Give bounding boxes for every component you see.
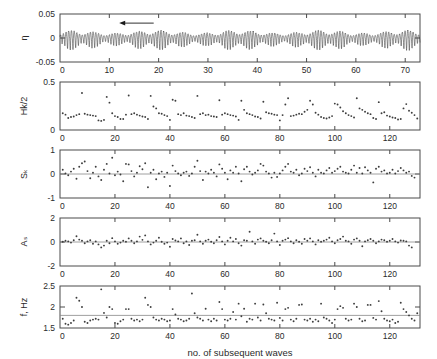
- data-point: [95, 115, 97, 117]
- data-point: [152, 242, 154, 244]
- data-point: [353, 239, 355, 241]
- data-point: [411, 112, 413, 114]
- data-point: [161, 241, 163, 243]
- data-point: [273, 172, 275, 174]
- data-point: [84, 161, 86, 163]
- data-point: [183, 242, 185, 244]
- data-point: [155, 107, 157, 109]
- panel-3-points: [62, 157, 416, 188]
- data-point: [257, 169, 259, 171]
- data-point: [221, 168, 223, 170]
- data-point: [183, 172, 185, 174]
- xtick-label: 0: [60, 133, 65, 143]
- data-point: [98, 119, 100, 121]
- ytick-label: 0: [50, 169, 55, 179]
- data-point: [392, 117, 394, 119]
- data-point: [249, 171, 251, 173]
- data-point: [400, 240, 402, 242]
- xtick-label: 0: [60, 269, 65, 279]
- data-point: [276, 240, 278, 242]
- data-point: [339, 166, 341, 168]
- data-point: [397, 170, 399, 172]
- data-point: [125, 308, 127, 310]
- data-point: [172, 238, 174, 240]
- ytick-label: -0.05: [36, 57, 56, 67]
- data-point: [400, 118, 402, 120]
- data-point: [411, 175, 413, 177]
- data-point: [315, 175, 317, 177]
- data-point: [243, 168, 245, 170]
- data-point: [199, 113, 201, 115]
- data-point: [218, 236, 220, 238]
- data-point: [205, 240, 207, 242]
- data-point: [262, 101, 264, 103]
- data-point: [221, 114, 223, 116]
- panel-1-ylabel: η: [19, 35, 29, 40]
- data-point: [265, 241, 267, 243]
- data-point: [147, 240, 149, 242]
- data-point: [240, 245, 242, 247]
- panel-5-frame: [60, 286, 420, 328]
- data-point: [185, 171, 187, 173]
- data-point: [84, 321, 86, 323]
- data-point: [273, 319, 275, 321]
- data-point: [400, 167, 402, 169]
- panel-3-ylabel: Sₖ: [19, 169, 29, 179]
- data-point: [416, 312, 418, 314]
- data-point: [125, 114, 127, 116]
- data-point: [166, 320, 168, 322]
- data-point: [290, 240, 292, 242]
- ytick-label: 1.5: [43, 323, 55, 333]
- data-point: [284, 308, 286, 310]
- data-point: [295, 169, 297, 171]
- data-point: [262, 165, 264, 167]
- data-point: [361, 109, 363, 111]
- data-point: [246, 240, 248, 242]
- data-point: [114, 240, 116, 242]
- data-point: [386, 241, 388, 243]
- data-point: [411, 318, 413, 320]
- xtick-label: 20: [110, 331, 120, 341]
- data-point: [133, 175, 135, 177]
- data-point: [163, 243, 165, 245]
- xtick-label: 40: [165, 201, 175, 211]
- data-point: [392, 238, 394, 240]
- data-point: [152, 169, 154, 171]
- data-point: [216, 175, 218, 177]
- data-point: [262, 240, 264, 242]
- data-point: [111, 112, 113, 114]
- xtick-label: 0: [60, 65, 65, 75]
- data-point: [67, 174, 69, 176]
- data-point: [279, 173, 281, 175]
- ytick-label: 2: [50, 213, 55, 223]
- data-point: [81, 240, 83, 242]
- xtick-label: 20: [110, 133, 120, 143]
- data-point: [383, 111, 385, 113]
- data-point: [268, 242, 270, 244]
- data-point: [405, 240, 407, 242]
- data-point: [111, 237, 113, 239]
- data-point: [188, 175, 190, 177]
- data-point: [375, 118, 377, 120]
- data-point: [174, 240, 176, 242]
- data-point: [210, 320, 212, 322]
- data-point: [361, 320, 363, 322]
- data-point: [194, 166, 196, 168]
- data-point: [364, 240, 366, 242]
- data-point: [141, 239, 143, 241]
- data-point: [243, 109, 245, 111]
- data-point: [386, 173, 388, 175]
- data-point: [240, 315, 242, 317]
- data-point: [89, 177, 91, 179]
- xtick-label: 20: [110, 269, 120, 279]
- data-point: [251, 240, 253, 242]
- data-point: [381, 239, 383, 241]
- data-point: [169, 119, 171, 121]
- data-point: [246, 321, 248, 323]
- data-point: [76, 114, 78, 116]
- data-point: [122, 240, 124, 242]
- data-point: [350, 115, 352, 117]
- data-point: [155, 319, 157, 321]
- data-point: [254, 116, 256, 118]
- data-point: [191, 173, 193, 175]
